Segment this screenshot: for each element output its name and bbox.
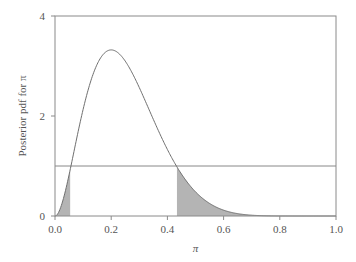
plot-frame <box>55 16 336 216</box>
x-axis-ticks: 0.00.20.40.60.81.0 <box>48 216 343 235</box>
shaded-right-tail <box>177 167 336 216</box>
x-tick-label: 0.0 <box>48 223 62 235</box>
x-tick-label: 0.4 <box>161 223 175 235</box>
x-tick-label: 0.2 <box>104 223 118 235</box>
x-tick-label: 0.8 <box>273 223 287 235</box>
posterior-density-curve <box>55 50 336 216</box>
y-tick-label: 2 <box>40 110 46 122</box>
y-axis-ticks: 024 <box>40 10 56 222</box>
y-tick-label: 0 <box>40 210 46 222</box>
y-tick-label: 4 <box>40 10 46 22</box>
y-axis-title: Posterior pdf for π <box>16 75 28 156</box>
x-tick-label: 0.6 <box>217 223 231 235</box>
x-axis-title: π <box>193 242 199 254</box>
posterior-pdf-chart: 0.00.20.40.60.81.0 024 π Posterior pdf f… <box>0 0 356 262</box>
shaded-left-tail <box>55 170 70 216</box>
x-tick-label: 1.0 <box>329 223 343 235</box>
